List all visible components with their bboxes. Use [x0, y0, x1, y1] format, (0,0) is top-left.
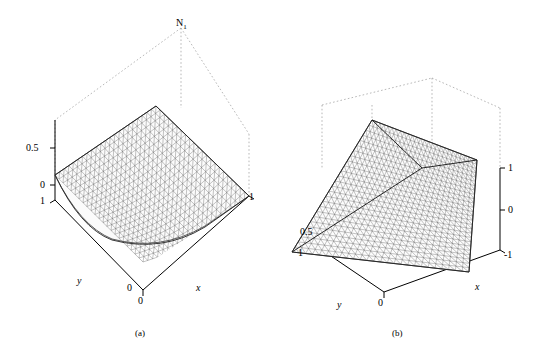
figure-container: N1 0.5 0 1 1 0 0 y x (a) — [0, 0, 545, 358]
panel-b: 1 0 0.5 1 0 -1 y x (b) — [272, 0, 545, 358]
z-tick-1-b: 1 — [508, 163, 513, 173]
panel-b-graphics — [272, 0, 545, 358]
z-tick-0-b: 0 — [508, 205, 513, 215]
z-tick-0-a: 0 — [40, 180, 45, 190]
y-tick-1-a: 1 — [40, 196, 45, 206]
z-tick-0-5-b: 0.5 — [300, 227, 313, 237]
y-tick-1-b: 1 — [298, 248, 303, 258]
caption-a: (a) — [135, 328, 145, 338]
x-tick-minus1-b: -1 — [504, 250, 512, 260]
axis-label-y-a: y — [77, 276, 81, 286]
peak-label-a: N1 — [176, 18, 187, 31]
caption-b: (b) — [392, 328, 403, 338]
origin-tick-a: 0 — [138, 296, 143, 306]
axis-label-x-b: x — [475, 282, 479, 292]
axis-label-y-b: y — [337, 300, 341, 310]
panel-a: N1 0.5 0 1 1 0 0 y x (a) — [0, 0, 272, 358]
z-tick-0-5-a: 0.5 — [26, 143, 39, 153]
z-ticks-a — [50, 148, 55, 185]
y-tick-0-b: 0 — [378, 298, 383, 308]
axis-label-x-a: x — [196, 283, 200, 293]
y-tick-0-a: 0 — [127, 283, 132, 293]
x-tick-1-a: 1 — [249, 192, 254, 202]
